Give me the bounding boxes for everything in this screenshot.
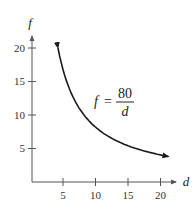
x-axis-label: d bbox=[183, 174, 190, 189]
svg-text:10: 10 bbox=[14, 109, 26, 121]
y-axis-label: f bbox=[28, 15, 34, 30]
svg-text:5: 5 bbox=[60, 189, 66, 201]
svg-text:80: 80 bbox=[118, 86, 132, 101]
svg-text:5: 5 bbox=[20, 142, 26, 154]
chart: f d 20 15 10 5 5 10 15 20 f = 80 d bbox=[0, 0, 196, 213]
svg-text:f: f bbox=[94, 94, 100, 109]
svg-text:20: 20 bbox=[155, 189, 167, 201]
y-ticks: 20 15 10 5 bbox=[14, 42, 36, 154]
svg-text:d: d bbox=[122, 104, 130, 119]
x-ticks: 5 10 15 20 bbox=[60, 178, 166, 201]
svg-text:15: 15 bbox=[123, 189, 135, 201]
svg-text:10: 10 bbox=[90, 189, 102, 201]
svg-text:=: = bbox=[104, 94, 112, 109]
svg-text:15: 15 bbox=[14, 75, 26, 87]
svg-text:20: 20 bbox=[14, 42, 26, 54]
equation-annotation: f = 80 d bbox=[94, 86, 134, 119]
curve-f-equals-80-over-d bbox=[58, 48, 169, 157]
